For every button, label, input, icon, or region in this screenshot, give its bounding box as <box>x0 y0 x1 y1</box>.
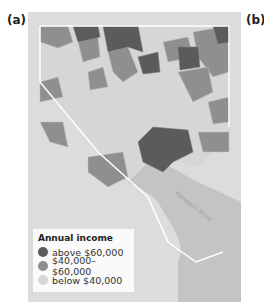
legend: Annual income above $60,000 $40,000–$60,… <box>33 229 134 292</box>
legend-label: below $40,000 <box>52 275 122 286</box>
legend-item-middle: $40,000–$60,000 <box>38 259 129 273</box>
panel-label-a: (a) <box>7 13 26 27</box>
medium-swatch-icon <box>38 261 48 271</box>
legend-item-below: below $40,000 <box>38 273 129 287</box>
panel-label-b: (b) <box>246 13 264 27</box>
dark-swatch-icon <box>38 247 48 257</box>
legend-title: Annual income <box>38 233 129 243</box>
light-swatch-icon <box>38 275 48 285</box>
